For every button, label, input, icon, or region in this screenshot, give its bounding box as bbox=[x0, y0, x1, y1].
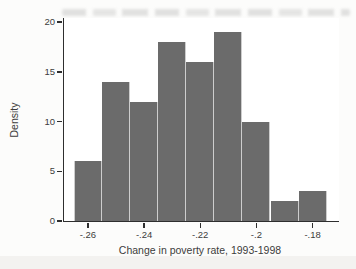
x-tick-label: -.26 bbox=[71, 230, 105, 240]
y-axis-title: Density bbox=[8, 102, 20, 137]
x-tick-mark bbox=[143, 223, 145, 228]
histogram-bar bbox=[299, 191, 327, 221]
y-tick-mark bbox=[57, 121, 62, 123]
y-tick-mark bbox=[57, 220, 62, 222]
histogram-bar bbox=[186, 62, 214, 221]
histogram-bar bbox=[242, 122, 270, 222]
x-tick-label: -.24 bbox=[127, 230, 161, 240]
x-axis-title: Change in poverty rate, 1993-1998 bbox=[119, 244, 281, 256]
y-tick-label: 0 bbox=[31, 216, 55, 226]
x-tick-mark bbox=[87, 223, 89, 228]
x-tick-label: -.22 bbox=[183, 230, 217, 240]
y-tick-label: 15 bbox=[31, 67, 55, 77]
plot-area: 05101520-.26-.24-.22-.2-.18 bbox=[63, 18, 339, 222]
y-tick-mark bbox=[57, 171, 62, 173]
histogram-bar bbox=[102, 82, 130, 221]
y-tick-mark bbox=[57, 21, 62, 23]
histogram-figure: 05101520-.26-.24-.22-.2-.18 Density Chan… bbox=[0, 0, 356, 269]
y-tick-mark bbox=[57, 71, 62, 73]
x-tick-mark bbox=[256, 223, 258, 228]
page-edge-shading bbox=[0, 256, 356, 269]
histogram-bar bbox=[214, 32, 242, 221]
x-tick-mark bbox=[312, 223, 314, 228]
x-tick-label: -.18 bbox=[296, 230, 330, 240]
y-tick-label: 5 bbox=[31, 166, 55, 176]
histogram-bar bbox=[130, 102, 158, 221]
x-tick-mark bbox=[200, 223, 202, 228]
y-tick-label: 20 bbox=[31, 17, 55, 27]
y-tick-label: 10 bbox=[31, 117, 55, 127]
x-tick-label: -.2 bbox=[239, 230, 273, 240]
histogram-bar bbox=[158, 42, 186, 221]
histogram-bar bbox=[74, 161, 102, 221]
cropped-text-artifact bbox=[62, 9, 350, 16]
histogram-bar bbox=[271, 201, 299, 221]
